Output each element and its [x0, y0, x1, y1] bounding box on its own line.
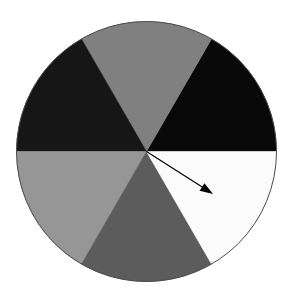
spinner-wheel-canvas [0, 0, 289, 290]
spinner-figure [0, 0, 289, 290]
